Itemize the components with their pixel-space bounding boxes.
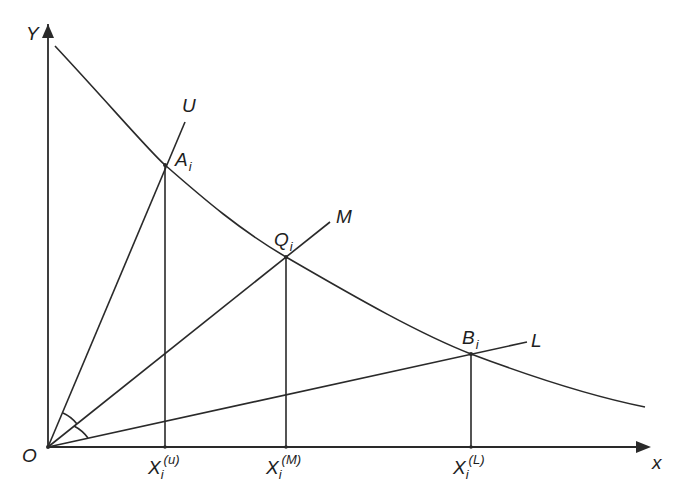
ray-u-label: U bbox=[182, 95, 196, 116]
point-b bbox=[469, 352, 473, 356]
x-axis-label: x bbox=[651, 452, 663, 473]
angle-arc-m-l bbox=[74, 426, 88, 438]
tick-u bbox=[163, 445, 167, 449]
point-b-label: Bi bbox=[462, 327, 480, 352]
angle-arc-u-m bbox=[63, 413, 77, 424]
y-axis-arrow-icon bbox=[42, 24, 54, 38]
ray-m-label: M bbox=[336, 206, 352, 227]
x-tick-m-label: Xi(M) bbox=[265, 452, 301, 482]
tick-l bbox=[469, 445, 473, 449]
ray-l-label: L bbox=[531, 330, 542, 351]
origin-label: O bbox=[22, 445, 37, 466]
y-axis-label: Y bbox=[26, 23, 40, 44]
point-a bbox=[163, 163, 167, 167]
point-q bbox=[284, 255, 288, 259]
x-axis-arrow-icon bbox=[636, 441, 651, 453]
ray-m bbox=[48, 222, 330, 447]
point-a-label: Ai bbox=[174, 149, 193, 174]
x-tick-u-label: Xi(u) bbox=[147, 452, 179, 482]
x-tick-l-label: Xi(L) bbox=[452, 452, 484, 482]
point-q-label: Qi bbox=[274, 229, 294, 254]
diagram-canvas: Y x O U M L Ai Qi Bi Xi(u) Xi(M) Xi(L) bbox=[0, 0, 681, 503]
ray-l bbox=[48, 342, 527, 447]
tick-m bbox=[284, 445, 288, 449]
origin-point bbox=[46, 445, 50, 449]
